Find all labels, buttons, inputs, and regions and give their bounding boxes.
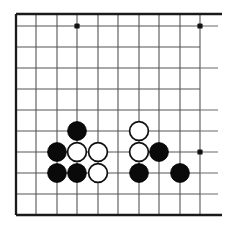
stone-black-4-7 [68, 122, 87, 141]
stone-white-5-9 [89, 164, 108, 183]
star-point-right-lower [197, 149, 202, 154]
board-border [16, 14, 222, 215]
board-canvas [0, 0, 226, 236]
stone-white-7-7 [130, 122, 149, 141]
stone-black-4-9 [68, 164, 87, 183]
stone-black-9-9 [171, 164, 190, 183]
stone-black-3-9 [48, 164, 67, 183]
grid-right-stub-lines [200, 26, 218, 215]
stone-black-7-9 [130, 164, 149, 183]
star-point-top-left-area [74, 23, 79, 28]
stone-black-8-8 [150, 143, 169, 162]
stone-white-5-8 [89, 143, 108, 162]
stone-white-4-8 [68, 143, 87, 162]
grid-horizontal-lines [16, 14, 200, 215]
board-surface [0, 0, 226, 236]
star-point-top-right-area [197, 23, 202, 28]
stone-white-7-8 [130, 143, 149, 162]
go-diagram-root [0, 0, 226, 236]
stone-black-3-8 [48, 143, 67, 162]
grid-vertical-lines [16, 14, 200, 215]
